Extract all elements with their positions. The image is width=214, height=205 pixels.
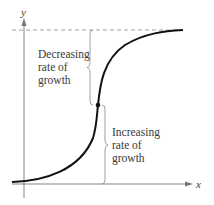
lower-annotation-line-2: rate of <box>112 139 142 151</box>
upper-annotation-line-2: rate of <box>38 61 68 73</box>
y-axis-label: y <box>20 6 26 18</box>
upper-annotation-line-1: Decreasing <box>38 48 90 61</box>
y-axis-arrow-icon <box>22 18 27 26</box>
lower-annotation-line-3: growth <box>112 152 145 165</box>
lower-brace <box>102 105 108 184</box>
upper-annotation-line-3: growth <box>38 74 71 87</box>
upper-brace <box>87 30 93 105</box>
logistic-growth-diagram: y x Decreasing rate of growth Increasing… <box>0 0 214 205</box>
lower-annotation-line-1: Increasing <box>112 126 160 139</box>
x-axis-arrow-icon <box>185 182 193 187</box>
x-axis-label: x <box>195 178 201 190</box>
inflection-point <box>96 103 101 108</box>
